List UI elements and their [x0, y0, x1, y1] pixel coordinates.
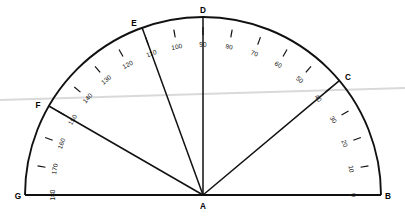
degree-label-160: 160 — [56, 137, 66, 150]
tick-170 — [38, 166, 46, 167]
vertex-label-B: B — [385, 192, 391, 201]
vertex-label-D: D — [200, 6, 206, 15]
degree-label-140: 140 — [81, 91, 94, 104]
tick-80 — [231, 30, 232, 38]
tick-60 — [283, 50, 287, 57]
vertex-label-A: A — [200, 202, 206, 211]
tick-10 — [361, 166, 369, 167]
tick-160 — [45, 138, 53, 141]
vertex-label-C: C — [345, 73, 351, 82]
degree-label-90: 90 — [199, 41, 207, 48]
tick-140 — [74, 87, 80, 92]
tick-30 — [342, 111, 349, 115]
degree-label-80: 80 — [225, 42, 234, 50]
tick-130 — [95, 66, 100, 72]
degree-label-50: 50 — [295, 74, 305, 84]
vertex-label-F: F — [35, 101, 40, 110]
degree-label-180: 180 — [49, 189, 56, 200]
degree-label-150: 150 — [67, 113, 79, 126]
tick-50 — [306, 66, 311, 72]
degree-label-30: 30 — [329, 115, 339, 125]
degree-label-10: 10 — [347, 165, 355, 174]
tick-20 — [353, 138, 361, 141]
degree-label-130: 130 — [100, 73, 113, 86]
degree-label-110: 110 — [145, 48, 158, 58]
tick-120 — [119, 50, 123, 57]
protractor-figure: 0102030405060708090100110120130140150160… — [0, 0, 405, 217]
degree-label-70: 70 — [250, 49, 260, 58]
degree-label-0: 0 — [350, 193, 357, 197]
vertex-label-G: G — [15, 192, 21, 201]
protractor-canvas: 0102030405060708090100110120130140150160… — [0, 0, 405, 217]
degree-label-170: 170 — [50, 162, 59, 174]
tick-100 — [174, 30, 175, 38]
degree-label-120: 120 — [121, 58, 134, 70]
degree-label-100: 100 — [171, 42, 183, 51]
degree-label-60: 60 — [273, 60, 283, 70]
degree-label-20: 20 — [340, 139, 349, 149]
tick-70 — [258, 37, 261, 45]
vertex-label-E: E — [131, 19, 137, 28]
